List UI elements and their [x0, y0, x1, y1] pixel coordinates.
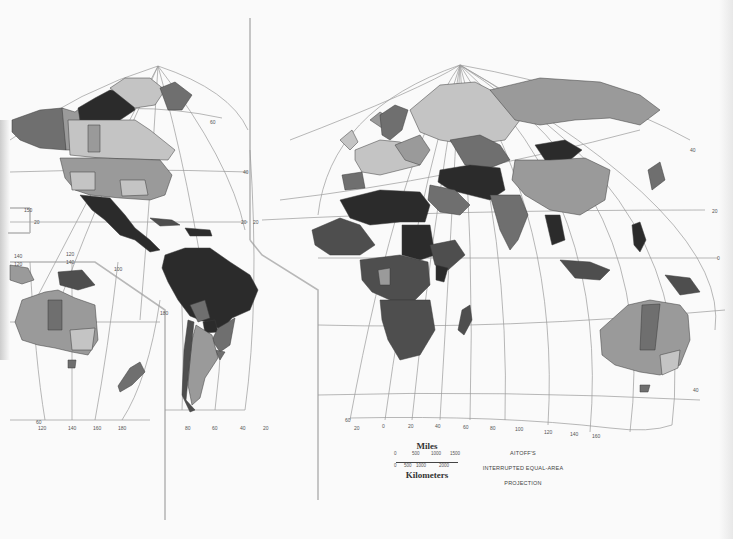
km-label: Kilometers: [392, 470, 462, 480]
svg-text:40: 40: [240, 425, 246, 431]
ethiopia-horn: [430, 240, 465, 270]
svg-text:120: 120: [66, 251, 75, 257]
china: [512, 158, 610, 215]
svg-text:120: 120: [38, 425, 47, 431]
svg-text:140: 140: [68, 425, 77, 431]
australia-central-region: [48, 300, 62, 330]
atlas-page: 120 140 160 180 80 60 40 20 20 0 20 40 6…: [0, 0, 733, 539]
greenland: [160, 82, 192, 110]
svg-text:0: 0: [382, 423, 385, 429]
svg-text:60: 60: [36, 419, 42, 425]
svg-text:80: 80: [185, 425, 191, 431]
svg-text:100: 100: [515, 426, 524, 432]
canada-south: [68, 120, 175, 160]
north-africa: [340, 190, 430, 225]
projection-title-line-2: INTERRUPTED EQUAL-AREA: [478, 461, 568, 476]
svg-text:40: 40: [435, 423, 441, 429]
svg-text:120: 120: [14, 261, 23, 267]
indonesia: [560, 260, 610, 280]
svg-text:20: 20: [253, 219, 259, 225]
svg-text:20: 20: [34, 219, 40, 225]
svg-text:0: 0: [717, 255, 720, 261]
svg-text:80: 80: [490, 425, 496, 431]
svg-text:60: 60: [463, 424, 469, 430]
svg-text:150: 150: [24, 207, 33, 213]
svg-text:100: 100: [114, 266, 123, 272]
svg-text:40: 40: [690, 147, 696, 153]
madagascar: [458, 305, 472, 335]
scale-legend: Miles 0 500 1000 1500 0 500 1000 2000 Ki…: [392, 441, 462, 480]
svg-text:160: 160: [93, 425, 102, 431]
scandinavia: [380, 105, 408, 140]
svg-text:40: 40: [693, 387, 699, 393]
svg-text:20: 20: [241, 219, 247, 225]
iberia: [342, 172, 365, 190]
japan: [648, 162, 665, 190]
svg-text:140: 140: [570, 431, 579, 437]
svg-text:20: 20: [408, 423, 414, 429]
new-guinea: [58, 270, 95, 290]
svg-text:20: 20: [712, 208, 718, 214]
alaska: [12, 108, 68, 150]
cameroon-congo: [378, 268, 390, 285]
tasmania: [68, 360, 76, 368]
south-america: [162, 248, 258, 412]
svg-text:140: 140: [66, 259, 75, 265]
russia-east: [490, 78, 660, 125]
australia-southeast-region: [70, 328, 95, 350]
projection-title-line-1: AITOFF'S: [478, 446, 568, 461]
us-south-region: [120, 180, 148, 196]
svg-text:20: 20: [263, 425, 269, 431]
british-isles: [340, 130, 358, 150]
svg-text:60: 60: [210, 119, 216, 125]
oceania-east: [600, 300, 690, 392]
new-zealand: [118, 362, 145, 392]
svg-text:160: 160: [592, 433, 601, 439]
north-america: [12, 78, 212, 252]
tasmania-east: [640, 385, 650, 392]
svg-text:60: 60: [212, 425, 218, 431]
canada-prairies: [88, 125, 100, 152]
mongolia: [535, 140, 582, 160]
hispaniola: [185, 228, 212, 236]
philippines: [632, 222, 646, 252]
central-africa: [360, 255, 430, 300]
kenya: [436, 265, 448, 282]
india: [490, 195, 528, 250]
svg-text:20: 20: [354, 425, 360, 431]
svg-text:120: 120: [544, 429, 553, 435]
southeast-asia: [545, 215, 565, 245]
svg-text:180: 180: [160, 310, 169, 316]
svg-text:140: 140: [14, 253, 23, 259]
svg-text:60: 60: [345, 417, 351, 423]
projection-title-line-3: PROJECTION: [478, 476, 568, 491]
svg-text:40: 40: [243, 169, 249, 175]
us-west-region: [70, 172, 95, 190]
sudan: [402, 225, 435, 260]
papua-new-guinea: [665, 275, 700, 295]
km-ticks: 0 500 1000 2000: [392, 463, 462, 469]
world-map: 120 140 160 180 80 60 40 20 20 0 20 40 6…: [0, 0, 733, 539]
southern-africa: [380, 300, 435, 360]
mexico-central-america: [80, 195, 160, 252]
oceania-west: [10, 265, 145, 392]
svg-text:180: 180: [118, 425, 127, 431]
projection-title: AITOFF'S INTERRUPTED EQUAL-AREA PROJECTI…: [478, 446, 568, 491]
miles-label: Miles: [392, 441, 462, 451]
